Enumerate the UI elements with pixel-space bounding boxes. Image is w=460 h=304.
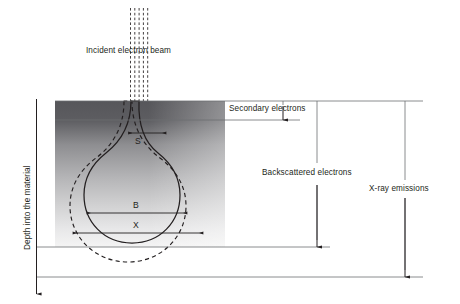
symbol-s: S bbox=[135, 137, 141, 146]
diagram-vector-layer bbox=[0, 0, 460, 304]
incident-beam-label: Incident electron beam bbox=[86, 47, 171, 55]
diagram-canvas: Incident electron beam Depth into the ma… bbox=[0, 0, 460, 304]
symbol-b: B bbox=[133, 201, 139, 210]
secondary-electrons-label: Secondary electrons bbox=[229, 105, 306, 113]
symbol-x: X bbox=[133, 221, 139, 230]
xray-emissions-label: X-ray emissions bbox=[369, 185, 429, 193]
depth-axis-label: Depth into the material bbox=[24, 165, 32, 250]
backscattered-electrons-label: Backscattered electrons bbox=[262, 169, 352, 177]
